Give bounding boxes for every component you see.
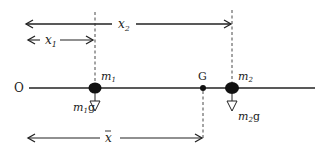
m2-label: m2 xyxy=(238,70,253,84)
diagram-svg: x2 x1 O m1 m1g G m2 xyxy=(0,0,328,151)
dimension-x2: x2 xyxy=(26,17,231,33)
origin-label: O xyxy=(14,81,24,95)
xbar-label: x xyxy=(105,131,112,145)
m2g-label: m2g xyxy=(238,110,260,124)
centre-of-mass-diagram: x2 x1 O m1 m1g G m2 xyxy=(0,0,328,151)
x2-label: x2 xyxy=(118,17,130,33)
dimension-xbar: x xyxy=(28,131,202,145)
m2-ball xyxy=(225,82,239,94)
mass-m1: m1 m1g xyxy=(73,70,116,115)
mass-m2: m2 m2g xyxy=(225,70,260,124)
dimension-x1: x1 xyxy=(28,33,93,49)
m2-weight-arrow-icon xyxy=(227,101,237,111)
m1-ball xyxy=(89,83,102,94)
m1g-label: m1g xyxy=(73,101,95,115)
m1-label: m1 xyxy=(101,70,116,84)
g-label: G xyxy=(198,70,207,83)
g-dot xyxy=(200,85,206,91)
x1-label: x1 xyxy=(45,33,57,49)
